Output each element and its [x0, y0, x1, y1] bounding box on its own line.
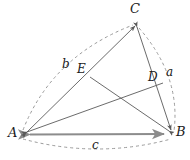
geometry-canvas [0, 0, 190, 160]
side-label-c: c [92, 139, 99, 151]
arc-b-path [23, 25, 133, 130]
side-label-a: a [166, 66, 173, 78]
point-label-E: E [77, 63, 86, 75]
cevian-AD [27, 83, 163, 132]
side-label-b: b [62, 58, 70, 70]
vertex-label-C: C [130, 2, 140, 15]
segment-AC [26, 26, 135, 133]
point-label-D: D [148, 71, 158, 83]
segment-AB [30, 134, 164, 135]
vertex-label-A: A [8, 126, 17, 139]
vertex-label-B: B [176, 125, 186, 138]
geometry-figure: A B C D E a b c [0, 0, 190, 160]
